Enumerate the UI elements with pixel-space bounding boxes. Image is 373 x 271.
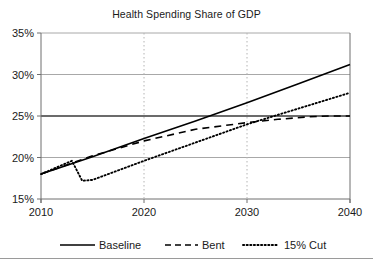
y-tick-label-20: 20% [12, 152, 34, 164]
y-tick-label-25: 25% [12, 110, 34, 122]
y-tick-label-30: 30% [12, 69, 34, 81]
line-chart-plot: 35% 30% 25% 20% 15% 2010 2020 2030 2040 … [0, 0, 373, 271]
chart-legend: Baseline Bent 15% Cut [60, 239, 326, 251]
x-tick-label-2020: 2020 [132, 206, 156, 218]
legend-label-baseline: Baseline [99, 239, 141, 251]
series-line-15-cut [41, 93, 350, 181]
chart-figure: Health Spending Share of GDP [0, 0, 373, 271]
legend-label-15-cut: 15% Cut [284, 239, 326, 251]
horizontal-gridlines [41, 33, 350, 199]
legend-label-bent: Bent [202, 239, 225, 251]
x-tick-label-2030: 2030 [235, 206, 259, 218]
series-line-bent [41, 116, 350, 174]
x-axis-ticks [41, 199, 350, 203]
bottom-divider [0, 258, 373, 259]
y-tick-label-15: 15% [12, 193, 34, 205]
x-tick-label-2040: 2040 [338, 206, 362, 218]
y-tick-label-35: 35% [12, 27, 34, 39]
x-tick-label-2010: 2010 [29, 206, 53, 218]
